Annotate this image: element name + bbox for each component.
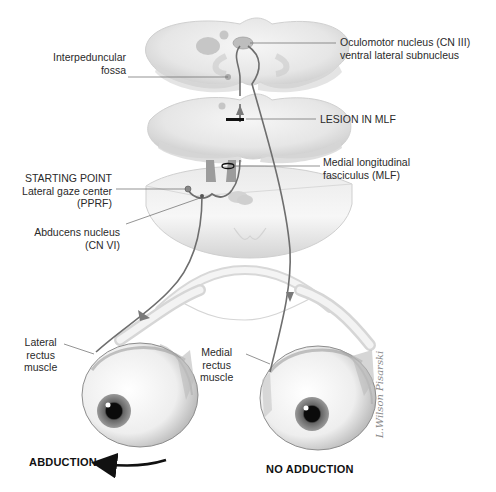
lesion-in-mlf-label: LESION IN MLF [320, 113, 396, 126]
abducens-nucleus-label: Abducens nucleus (CN VI) [34, 226, 120, 251]
lateral-rectus-label: Lateral rectus muscle [24, 336, 57, 374]
abduction-arrow-icon [104, 460, 166, 465]
abduction-label: ABDUCTION [29, 456, 97, 469]
pons-slice [148, 94, 351, 163]
interpeduncular-fossa-label: Interpeduncular fossa [53, 51, 126, 76]
right-eye [260, 346, 376, 450]
lesion-marker [226, 118, 244, 121]
medial-rectus-label: Medial rectus muscle [200, 346, 233, 384]
mlf-lesion-diagram: Oculomotor nucleus (CN III) ventral late… [0, 0, 496, 492]
artist-signature: L.Wilson Pisarski [374, 351, 385, 438]
left-eye [82, 343, 198, 447]
mlf-label: Medial longitudinal fasciculus (MLF) [323, 156, 410, 181]
lower-pons-slice [146, 160, 352, 258]
no-adduction-label: NO ADDUCTION [266, 463, 354, 476]
starting-point-pprf-label: STARTING POINT Lateral gaze center (PPRF… [22, 172, 112, 210]
ocular-nerve-bands [120, 270, 370, 345]
midbrain-slice [146, 18, 349, 92]
oculomotor-nucleus-label: Oculomotor nucleus (CN III) ventral late… [340, 36, 470, 61]
